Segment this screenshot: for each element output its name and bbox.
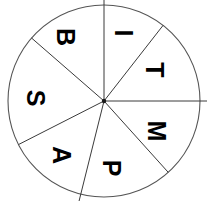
center-hub bbox=[102, 99, 106, 103]
segment-i-label: I bbox=[110, 30, 138, 37]
segment-m-label: M bbox=[143, 121, 171, 142]
wheel-diagram: BITMPAS bbox=[0, 0, 207, 201]
hub-dot bbox=[102, 99, 106, 103]
segment-s-label: S bbox=[22, 90, 50, 107]
segment-t-label: T bbox=[141, 62, 169, 77]
segment-p-label: P bbox=[98, 160, 126, 177]
segment-b-label: B bbox=[52, 28, 80, 46]
segment-a-label: A bbox=[48, 146, 76, 164]
wheel-svg: BITMPAS bbox=[0, 0, 207, 201]
